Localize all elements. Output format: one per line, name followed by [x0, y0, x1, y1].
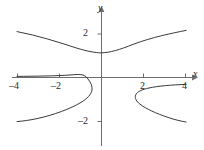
y-tick-label--2: –2 [78, 116, 88, 126]
plot-canvas [0, 0, 204, 150]
x-tick-label--2: –2 [51, 81, 61, 91]
y-tick-label-2: 2 [83, 28, 88, 38]
x-tick-label-4: 4 [182, 81, 187, 91]
x-axis-title: x [193, 69, 197, 79]
x-tick-label--4: –4 [9, 81, 19, 91]
graph-figure: –4 –2 2 4 2 –2 x y [0, 0, 204, 150]
x-tick-label-2: 2 [140, 81, 145, 91]
y-axis-title: y [98, 3, 102, 13]
